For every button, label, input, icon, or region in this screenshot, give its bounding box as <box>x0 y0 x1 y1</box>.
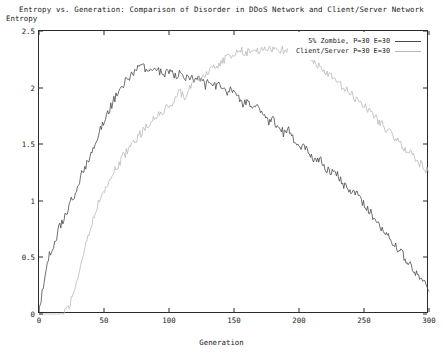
chart-legend: 5% Zombie, P=30 E=30 Client/Server P=30 … <box>288 32 426 60</box>
x-tick-mark <box>104 308 105 312</box>
y-tick-mark <box>423 257 427 258</box>
y-tick-label: 0 <box>31 310 35 319</box>
plot-area: 00.511.522.5050100150200250300 5% Zombie… <box>38 30 428 313</box>
x-tick-label: 0 <box>37 316 41 325</box>
x-tick-mark <box>429 308 430 312</box>
y-tick-mark <box>39 314 43 315</box>
series-line <box>39 46 429 314</box>
legend-swatch-zombie <box>395 41 421 42</box>
legend-label: Client/Server P=30 E=30 <box>296 47 390 55</box>
x-axis-label: Generation <box>0 338 443 347</box>
x-tick-mark <box>169 308 170 312</box>
x-tick-label: 200 <box>292 316 305 325</box>
series-line <box>39 64 429 309</box>
y-tick-label: 1 <box>31 196 35 205</box>
y-tick-mark <box>423 200 427 201</box>
x-tick-mark <box>169 31 170 35</box>
x-tick-mark <box>299 308 300 312</box>
legend-swatch-client-server <box>395 51 421 52</box>
y-tick-mark <box>39 200 43 201</box>
x-tick-mark <box>234 31 235 35</box>
y-tick-mark <box>423 87 427 88</box>
y-axis-label: Entropy <box>6 14 37 23</box>
x-tick-label: 150 <box>227 316 240 325</box>
x-tick-mark <box>429 31 430 35</box>
legend-label: 5% Zombie, P=30 E=30 <box>308 37 390 45</box>
y-tick-label: 0.5 <box>22 253 35 262</box>
y-tick-label: 1.5 <box>22 140 35 149</box>
x-tick-mark <box>364 308 365 312</box>
y-tick-mark <box>39 144 43 145</box>
y-tick-label: 2 <box>31 83 35 92</box>
x-tick-mark <box>104 31 105 35</box>
y-tick-mark <box>39 257 43 258</box>
y-tick-mark <box>39 87 43 88</box>
legend-item: 5% Zombie, P=30 E=30 <box>296 36 421 46</box>
x-tick-label: 300 <box>422 316 435 325</box>
entropy-line-chart: Entropy vs. Generation: Comparison of Di… <box>0 0 443 357</box>
legend-item: Client/Server P=30 E=30 <box>296 46 421 56</box>
x-tick-label: 100 <box>162 316 175 325</box>
y-tick-label: 2.5 <box>22 27 35 36</box>
series-layer <box>39 31 429 314</box>
y-tick-mark <box>423 144 427 145</box>
x-tick-label: 50 <box>100 316 109 325</box>
x-tick-label: 250 <box>357 316 370 325</box>
x-tick-mark <box>39 31 40 35</box>
chart-title: Entropy vs. Generation: Comparison of Di… <box>0 5 443 14</box>
y-tick-mark <box>39 31 43 32</box>
x-tick-mark <box>39 308 40 312</box>
x-tick-mark <box>234 308 235 312</box>
y-tick-mark <box>423 314 427 315</box>
